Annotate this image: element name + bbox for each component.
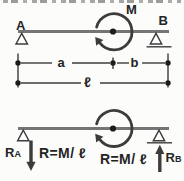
dimension-label-b: b [131, 56, 139, 69]
reaction-arrow-left-head-down [26, 162, 35, 171]
reaction-symbol-right: RB [166, 151, 182, 164]
reaction-equation-left: R=M/ ℓ [39, 146, 86, 160]
moment-application-point-top [110, 28, 116, 34]
reaction-symbol-right-main: R [166, 150, 175, 165]
dimension-dot [15, 60, 20, 65]
support-label-b: B [159, 14, 168, 27]
roller-support-right-top [150, 33, 161, 44]
dimension-label-a: a [58, 56, 65, 69]
pin-support-left-bottom [18, 130, 29, 141]
reaction-symbol-left: RA [5, 146, 21, 159]
dimension-dot [110, 60, 115, 65]
reaction-equation-right: R=M/ ℓ [100, 152, 147, 166]
dimension-dot [165, 80, 170, 85]
reaction-symbol-left-main: R [5, 145, 14, 160]
reaction-arrow-right-head-up [155, 145, 164, 154]
roller-support-right-bottom [153, 130, 164, 141]
diagram-canvas [0, 0, 184, 181]
dimension-dot [165, 60, 170, 65]
support-label-a: A [16, 19, 25, 32]
pin-support-left-top [16, 33, 28, 44]
moment-application-point-bottom [110, 125, 116, 131]
reaction-symbol-left-sub: A [14, 149, 21, 159]
reaction-symbol-right-sub: B [175, 154, 182, 164]
moment-label: M [126, 3, 137, 16]
dimension-label-length: ℓ [84, 75, 91, 89]
dimension-dot [15, 80, 20, 85]
beam-moment-free-body-diagram: A M B a b ℓ RA R=M/ ℓ R=M/ ℓ RB [0, 0, 184, 181]
